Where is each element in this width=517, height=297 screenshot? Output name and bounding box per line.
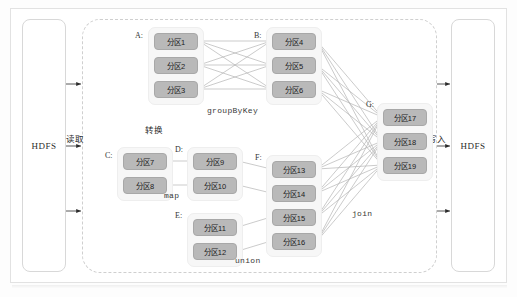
group-label-f: F: <box>255 153 262 162</box>
hdfs-source-label: HDFS <box>23 141 65 151</box>
partition-box[interactable]: 分区11 <box>193 219 237 236</box>
group-label-a: A: <box>135 31 143 40</box>
partition-box[interactable]: 分区19 <box>383 157 427 174</box>
hdfs-source-box[interactable]: HDFS <box>22 19 66 272</box>
partition-box[interactable]: 分区13 <box>272 161 316 178</box>
frame-shadow <box>12 285 507 289</box>
group-label-c: C: <box>105 151 113 160</box>
group-label-d: D: <box>175 145 183 154</box>
partition-box[interactable]: 分区6 <box>272 81 316 98</box>
partition-box[interactable]: 分区5 <box>272 57 316 74</box>
operator-label-union: union <box>235 256 261 265</box>
group-label-g: G: <box>366 100 374 109</box>
partition-box[interactable]: 分区18 <box>383 133 427 150</box>
partition-box[interactable]: 分区4 <box>272 33 316 50</box>
partition-box[interactable]: 分区1 <box>154 33 198 50</box>
read-label: 读取 <box>66 132 84 144</box>
group-label-e: E: <box>175 211 182 220</box>
partition-box[interactable]: 分区14 <box>272 185 316 202</box>
partition-box[interactable]: 分区17 <box>383 109 427 126</box>
partition-box[interactable]: 分区3 <box>154 81 198 98</box>
partition-box[interactable]: 分区8 <box>123 177 167 194</box>
operator-label-groupbykey: groupByKey <box>207 106 258 115</box>
cluster-label: 转换 <box>145 123 163 135</box>
group-label-b: B: <box>254 31 262 40</box>
hdfs-sink-label: HDFS <box>452 141 494 151</box>
partition-box[interactable]: 分区16 <box>272 233 316 250</box>
operator-label-map: map <box>164 191 179 200</box>
partition-box[interactable]: 分区12 <box>193 243 237 260</box>
partition-box[interactable]: 分区9 <box>193 153 237 170</box>
partition-box[interactable]: 分区7 <box>123 153 167 170</box>
operator-label-join: join <box>352 209 372 218</box>
partition-box[interactable]: 分区15 <box>272 209 316 226</box>
partition-box[interactable]: 分区2 <box>154 57 198 74</box>
hdfs-sink-box[interactable]: HDFS <box>451 19 495 272</box>
partition-box[interactable]: 分区10 <box>193 177 237 194</box>
diagram-canvas: HDFS HDFS 读取 写入 转换 A: B: C: D: E: F: G: … <box>0 0 517 297</box>
